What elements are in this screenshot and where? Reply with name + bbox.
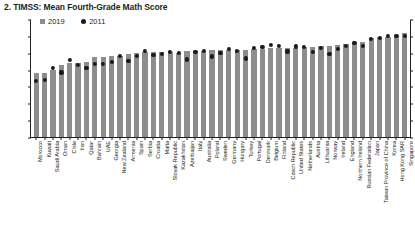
x-axis-tick-mark [44, 137, 45, 140]
x-axis-label-cell: Qatar [82, 141, 90, 231]
bar-group [32, 20, 40, 137]
x-axis-label-cell: Spain [132, 141, 140, 231]
x-axis-label-cell: Azerbaijan [183, 141, 191, 231]
x-axis-label-cell: Finland [275, 141, 283, 231]
x-axis-tick-mark [186, 137, 187, 140]
x-axis-tick-mark [362, 137, 363, 140]
bar-2019 [318, 46, 323, 137]
bar-group [233, 20, 241, 137]
bar-2019 [235, 50, 240, 137]
x-axis-label-cell: Kuwait [39, 141, 47, 231]
x-axis-tick-mark [52, 137, 53, 140]
x-axis-tick-mark [170, 137, 171, 140]
y-axis-tick-mark-right [410, 70, 413, 71]
bar-group [283, 20, 291, 137]
x-axis-tick-mark [128, 137, 129, 140]
bar-group [225, 20, 233, 137]
y-axis-tick-mark-right [410, 20, 413, 21]
bar-2019 [302, 47, 307, 137]
x-axis-tick-mark [329, 137, 330, 140]
x-axis-labels: MoroccoKuwaitSaudi ArabiaOmanChileIranQa… [30, 141, 411, 231]
bar-group [216, 20, 224, 137]
bar-group [367, 20, 375, 137]
y-axis-tick-mark [28, 121, 31, 122]
y-axis-tick-mark-right [410, 36, 413, 37]
x-axis-label-cell: Croatia [149, 141, 157, 231]
x-axis-tick-mark [94, 137, 95, 140]
dot-2011 [269, 43, 273, 47]
bar-2019 [184, 51, 189, 137]
plot-area: 0100200300400500600700 [30, 20, 411, 138]
x-axis-label-cell: Hungary [233, 141, 241, 231]
bar-group [200, 20, 208, 137]
bar-2019 [260, 49, 265, 137]
x-axis-tick-mark [237, 137, 238, 140]
bar-2019 [352, 42, 357, 137]
x-axis-label-cell: Singapore [402, 141, 410, 231]
bar-group [384, 20, 392, 137]
x-axis-label-cell: Denmark [258, 141, 266, 231]
x-axis-label-cell: Morocco [31, 141, 39, 231]
bar-2019 [402, 33, 407, 137]
bar-group [166, 20, 174, 137]
x-axis-label-cell: United States [292, 141, 300, 231]
bar-2019 [218, 50, 223, 137]
x-axis-label-cell: Sweden [216, 141, 224, 231]
bar-2019 [310, 47, 315, 137]
x-axis-tick-mark [195, 137, 196, 140]
x-axis-tick-mark [145, 137, 146, 140]
x-axis-label-cell: Oman [56, 141, 64, 231]
bar-group [99, 20, 107, 137]
bar-group [401, 20, 409, 137]
x-axis-label-cell: Italy [191, 141, 199, 231]
bar-2019 [377, 37, 382, 137]
x-axis-tick-mark [245, 137, 246, 140]
bar-2019 [276, 48, 281, 137]
bar-2019 [209, 50, 214, 137]
y-axis-tick-mark-right [410, 121, 413, 122]
x-axis-tick-mark [111, 137, 112, 140]
x-axis-label-cell: Belgium [267, 141, 275, 231]
y-axis-tick-mark-right [410, 138, 413, 139]
bar-2019 [226, 50, 231, 137]
bar-2019 [394, 36, 399, 137]
x-axis-tick-mark [387, 137, 388, 140]
bar-group [116, 20, 124, 137]
bar-group [133, 20, 141, 137]
bar-group [275, 20, 283, 137]
y-axis-tick-mark-right [410, 53, 413, 54]
x-axis-tick-mark [212, 137, 213, 140]
y-axis-tick-mark [28, 87, 31, 88]
bar-group [292, 20, 300, 137]
bar-2019 [92, 57, 97, 137]
bar-group [158, 20, 166, 137]
bar-group [325, 20, 333, 137]
bar-group [149, 20, 157, 137]
bar-group [250, 20, 258, 137]
x-axis-tick-mark [346, 137, 347, 140]
bar-group [66, 20, 74, 137]
x-axis-tick-mark [161, 137, 162, 140]
x-axis-tick-mark [153, 137, 154, 140]
bar-2019 [360, 42, 365, 137]
x-axis-label-cell: Norway [326, 141, 334, 231]
bar-group [392, 20, 400, 137]
x-axis-tick-mark [371, 137, 372, 140]
x-axis-tick-mark [312, 137, 313, 140]
x-axis-tick-mark [287, 137, 288, 140]
x-axis-tick-mark [270, 137, 271, 140]
x-axis-label-cell: Poland [208, 141, 216, 231]
bar-group [300, 20, 308, 137]
bar-group [57, 20, 65, 137]
x-axis-tick-mark [354, 137, 355, 140]
x-axis-label-cell: Serbia [140, 141, 148, 231]
bar-2019 [67, 63, 72, 137]
x-axis-tick-mark [253, 137, 254, 140]
bar-2019 [142, 52, 147, 137]
x-axis-tick-mark [396, 137, 397, 140]
y-axis-tick-mark-right [410, 104, 413, 105]
bar-group [317, 20, 325, 137]
x-axis-label-cell: Russian Federation [359, 141, 367, 231]
x-axis-tick-mark [178, 137, 179, 140]
bar-2019 [117, 56, 122, 137]
